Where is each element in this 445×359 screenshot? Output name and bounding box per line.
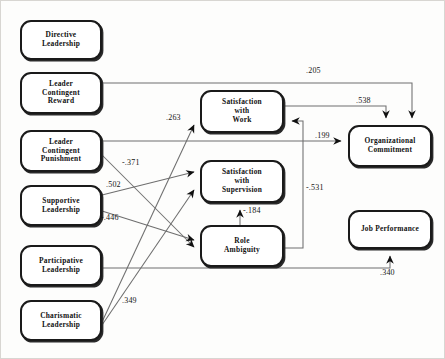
- node-label-line3: Supervision: [220, 186, 264, 195]
- edge-roleamb-satwork: [284, 121, 303, 248]
- node-supportive-leadership[interactable]: SupportiveLeadership: [20, 185, 102, 226]
- node-leader-contingent-punishment[interactable]: LeaderContingentPunishment: [20, 130, 102, 172]
- path-coefficient-supportive-roleamb: -.446: [101, 213, 119, 222]
- path-coefficient-charismatic-satwork: .263: [166, 113, 181, 122]
- node-label-line2: Leadership: [37, 266, 85, 275]
- node-role-ambiguity[interactable]: RoleAmbiguity: [200, 225, 284, 267]
- path-diagram-canvas: DirectiveLeadership LeaderContingentRewa…: [0, 0, 445, 359]
- node-organizational-commitment[interactable]: OrganizationalCommitment: [348, 125, 432, 167]
- node-directive-leadership[interactable]: DirectiveLeadership: [20, 20, 102, 60]
- node-label-line3: Reward: [40, 97, 82, 106]
- path-coefficient-charismatic-satsup: .349: [122, 296, 137, 305]
- node-satisfaction-with-work[interactable]: SatisfactionwithWork: [200, 90, 284, 133]
- node-label-line1: Job Performance: [359, 225, 421, 234]
- path-coefficient-supportive-satsup: .502: [106, 180, 121, 189]
- node-job-performance[interactable]: Job Performance: [348, 210, 432, 249]
- node-label-line2: Leadership: [40, 206, 82, 215]
- edge-charismatic-satwork: [102, 125, 194, 322]
- node-charismatic-leadership[interactable]: CharismaticLeadership: [20, 300, 102, 341]
- node-leader-contingent-reward[interactable]: LeaderContingentReward: [20, 72, 102, 114]
- path-coefficient-participative-jobperf: .340: [380, 268, 395, 277]
- node-label-line2: Commitment: [362, 146, 417, 155]
- node-label-line2: Leadership: [40, 40, 82, 49]
- path-coefficient-lcp-roleamb: -.371: [122, 158, 140, 167]
- path-coefficient-satwork-orgcommit: .538: [356, 96, 371, 105]
- node-label-line2: Leadership: [38, 321, 84, 330]
- edge-satwork-orgcommit: [284, 106, 386, 118]
- node-label-line2: Ambiguity: [222, 246, 262, 255]
- path-coefficient-roleamb-satsup: -.184: [243, 206, 261, 215]
- path-coefficient-lcp-orgcommit: .199: [315, 131, 330, 140]
- node-participative-leadership[interactable]: ParticipativeLeadership: [20, 245, 102, 286]
- path-coefficient-roleamb-satwork: -.531: [306, 183, 324, 192]
- path-coefficient-lcr-orgcommit: .205: [306, 66, 321, 75]
- node-label-line3: Work: [220, 116, 264, 125]
- node-satisfaction-with-supervision[interactable]: SatisfactionwithSupervision: [200, 160, 284, 203]
- node-label-line3: Punishment: [39, 155, 83, 164]
- edge-lcp-roleamb: [102, 155, 194, 247]
- edge-charismatic-satsup: [102, 190, 194, 325]
